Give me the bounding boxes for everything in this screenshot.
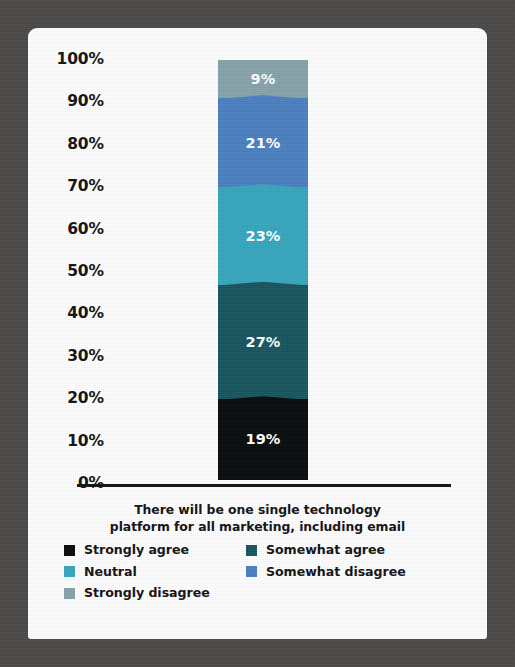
bar-segment-label: 21%	[245, 135, 280, 151]
legend-swatch-icon	[246, 566, 257, 577]
page-frame: 100% 90% 80% 70% 60% 50% 40% 30% 20% 10%…	[0, 0, 515, 667]
y-tick-20: 20%	[42, 391, 104, 407]
y-tick-70: 70%	[42, 179, 104, 195]
plot-area: 100% 90% 80% 70% 60% 50% 40% 30% 20% 10%…	[28, 28, 487, 498]
chart-card: 100% 90% 80% 70% 60% 50% 40% 30% 20% 10%…	[28, 28, 487, 639]
legend: Strongly agree Somewhat agree Neutral So…	[64, 544, 454, 609]
chart-title: There will be one single technology plat…	[28, 502, 487, 535]
legend-label: Somewhat agree	[266, 544, 385, 557]
legend-item-strongly-disagree[interactable]: Strongly disagree	[64, 587, 246, 600]
bar-segment-label: 19%	[245, 431, 280, 447]
legend-row: Strongly disagree	[64, 587, 454, 600]
legend-swatch-icon	[64, 545, 75, 556]
legend-label: Strongly disagree	[84, 587, 210, 600]
bar-segment-somewhat-agree[interactable]: 27%	[218, 285, 308, 399]
bar-segment-label: 27%	[245, 334, 280, 350]
chart-title-line-1: There will be one single technology	[28, 502, 487, 519]
legend-row: Strongly agree Somewhat agree	[64, 544, 454, 557]
x-axis-baseline	[77, 484, 451, 487]
chart-title-line-2: platform for all marketing, including em…	[28, 519, 487, 536]
legend-item-somewhat-agree[interactable]: Somewhat agree	[246, 544, 385, 557]
bar-segment-strongly-agree[interactable]: 19%	[218, 399, 308, 480]
stacked-bar[interactable]: 9% 21% 23% 27% 19%	[218, 60, 308, 484]
y-tick-30: 30%	[42, 349, 104, 365]
y-tick-80: 80%	[42, 137, 104, 153]
bar-segment-label: 9%	[251, 71, 276, 87]
legend-label: Neutral	[84, 566, 137, 579]
legend-swatch-icon	[64, 566, 75, 577]
bar-segment-strongly-disagree[interactable]: 9%	[218, 60, 308, 98]
legend-label: Strongly agree	[84, 544, 189, 557]
y-tick-60: 60%	[42, 222, 104, 238]
legend-swatch-icon	[64, 588, 75, 599]
y-tick-40: 40%	[42, 307, 104, 323]
bar-segment-somewhat-disagree[interactable]: 21%	[218, 98, 308, 187]
legend-item-neutral[interactable]: Neutral	[64, 566, 246, 579]
legend-swatch-icon	[246, 545, 257, 556]
legend-item-somewhat-disagree[interactable]: Somewhat disagree	[246, 566, 406, 579]
y-tick-50: 50%	[42, 264, 104, 280]
y-tick-90: 90%	[42, 95, 104, 111]
legend-item-strongly-agree[interactable]: Strongly agree	[64, 544, 246, 557]
y-tick-10: 10%	[42, 434, 104, 450]
legend-row: Neutral Somewhat disagree	[64, 566, 454, 579]
bar-segment-label: 23%	[245, 228, 280, 244]
y-tick-100: 100%	[42, 52, 104, 68]
legend-label: Somewhat disagree	[266, 566, 406, 579]
bar-segment-neutral[interactable]: 23%	[218, 187, 308, 285]
